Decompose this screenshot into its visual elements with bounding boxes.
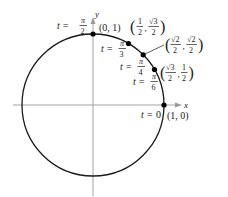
svg-text:): ) (189, 64, 194, 82)
svg-text:): ) (198, 36, 203, 54)
svg-text:(: ( (160, 64, 165, 82)
label-t-pi3: t = π 3 (101, 39, 126, 59)
label-t0: t = 0 (141, 109, 161, 120)
svg-text:): ) (160, 18, 165, 36)
coord-pi6: ( √3 2 , 1 2 ) (160, 63, 194, 83)
svg-text:√2: √2 (187, 35, 195, 44)
svg-text:(: ( (165, 36, 170, 54)
svg-text:t =: t = (133, 76, 145, 87)
x-axis-arrow-icon (175, 103, 182, 108)
svg-text:t =: t = (101, 43, 113, 54)
coord-pi3: ( 1 2 , √3 2 ) (130, 17, 165, 37)
svg-text:√2: √2 (171, 35, 179, 44)
svg-text:1: 1 (182, 63, 186, 72)
svg-text:,: , (178, 69, 180, 79)
svg-text:2: 2 (152, 28, 156, 37)
svg-text:t =: t = (57, 20, 69, 31)
svg-text:6: 6 (152, 83, 156, 92)
point-t-pi3 (126, 41, 131, 46)
svg-text:2: 2 (168, 74, 172, 83)
svg-text:2: 2 (173, 46, 177, 55)
svg-text:π: π (81, 16, 86, 25)
svg-text:√3: √3 (149, 17, 157, 26)
label-t-pi4: t = π 4 (120, 57, 145, 77)
y-axis-label: y (94, 9, 99, 19)
svg-text:2: 2 (81, 27, 85, 36)
point-t-pi2 (90, 31, 95, 36)
svg-text:π: π (139, 57, 144, 66)
svg-text:2: 2 (182, 74, 186, 83)
coord-pi4: ( √2 2 , √2 2 ) (165, 35, 203, 55)
svg-text:√3: √3 (166, 63, 174, 72)
label-t-pi2: t = π 2 (57, 16, 87, 36)
coord-t0: (1, 0) (167, 110, 189, 122)
label-t-pi6: t = π 6 (133, 72, 158, 92)
svg-text:t =: t = (141, 109, 153, 120)
svg-text:0: 0 (156, 109, 161, 120)
coord-pi2: (0, 1) (99, 22, 121, 34)
svg-text:,: , (183, 41, 185, 51)
svg-text:2: 2 (138, 28, 142, 37)
svg-text:π: π (120, 39, 125, 48)
unit-circle-diagram: x y t = π 2 (0, 1) ( 1 2 , √3 2 ) t = π … (0, 0, 228, 197)
point-t0 (161, 102, 166, 107)
leader-line-pi4 (145, 45, 164, 54)
svg-text:,: , (145, 23, 147, 33)
svg-text:2: 2 (189, 46, 193, 55)
svg-text:(: ( (130, 18, 135, 36)
svg-text:3: 3 (120, 50, 124, 59)
x-axis-label: x (183, 100, 188, 110)
svg-text:1: 1 (138, 17, 142, 26)
svg-text:t =: t = (120, 61, 132, 72)
